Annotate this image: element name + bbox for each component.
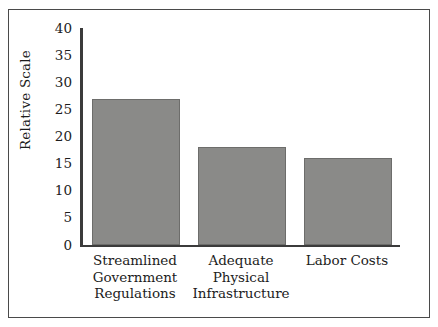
category-label-line: Adequate [188,252,294,269]
category-label-line: Regulations [82,285,188,302]
category-label-line: Physical [188,269,294,286]
figure-bar-chart: Relative Scale 4035302520151050 Streamli… [0,0,438,327]
plot-area: 4035302520151050 [72,22,402,248]
category-label-2: AdequatePhysicalInfrastructure [188,252,294,302]
x-axis-category-labels: StreamlinedGovernmentRegulationsAdequate… [82,252,402,314]
bar-series [83,22,401,245]
bar-1 [92,99,180,245]
y-axis-tick-35: 35 [32,47,72,63]
y-axis-tick-20: 20 [32,128,72,144]
y-axis-tick-0: 0 [32,237,72,253]
bar-3 [304,158,392,245]
y-axis-tick-5: 5 [32,209,72,225]
category-label-line: Labor Costs [294,252,400,269]
category-label-1: StreamlinedGovernmentRegulations [82,252,188,302]
bar-2 [198,147,286,245]
category-label-line: Government [82,269,188,286]
y-axis-tick-40: 40 [32,20,72,36]
y-axis-tick-10: 10 [32,182,72,198]
y-axis-label: Relative Scale [17,30,33,170]
y-axis-tick-30: 30 [32,74,72,90]
category-label-line: Infrastructure [188,285,294,302]
category-label-3: Labor Costs [294,252,400,269]
y-axis-tick-15: 15 [32,155,72,171]
y-axis-tick-25: 25 [32,101,72,117]
category-label-line: Streamlined [82,252,188,269]
